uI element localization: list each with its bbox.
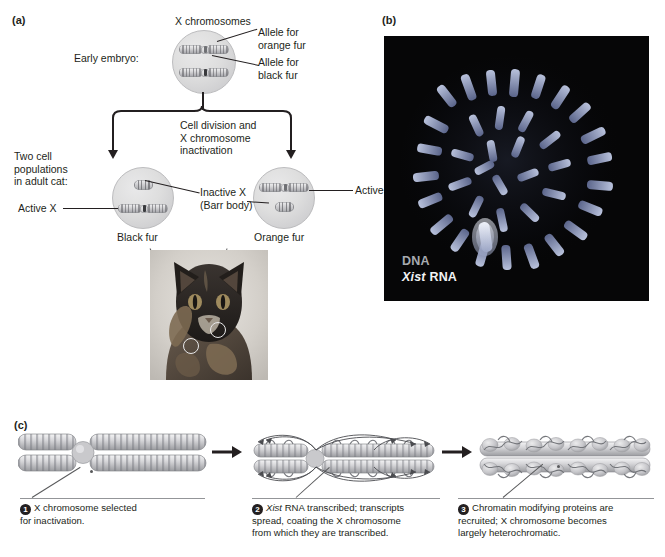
active-x-chromosome-left	[118, 204, 168, 213]
chromosome-stage-3	[474, 428, 656, 484]
photo-circle-orange-fur	[210, 322, 226, 338]
barr-body-chromosome-right	[275, 202, 294, 212]
two-cell-populations-label: Two cell populations in adult cat:	[14, 150, 68, 188]
leader-active-x-left	[63, 208, 118, 209]
early-embryo-label: Early embryo:	[74, 52, 139, 65]
active-x-chromosome-right	[259, 183, 309, 192]
step-1-line1: X chromosome selected	[34, 502, 137, 513]
step-2-line2: spread, coating the X chromosome	[252, 515, 440, 527]
step-1-line2: for inactivation.	[20, 515, 205, 527]
arrow-stage1-to-stage2	[212, 445, 242, 463]
black-fur-cell-label: Black fur	[117, 231, 158, 244]
panel-a-letter: (a)	[12, 14, 25, 26]
step-2-line3: from which they are transcribed.	[252, 527, 440, 539]
arrow-left-head	[108, 150, 118, 159]
step-2-line1: RNA transcribed; transcripts	[282, 502, 404, 513]
step-2-italic-lead: Xist	[266, 502, 282, 513]
leader-step-1-dot	[90, 470, 93, 473]
process-label: Cell division and X chromosome inactivat…	[180, 119, 256, 157]
arrow-right-shaft	[290, 124, 292, 152]
xist-rna-label: Xist RNA	[402, 270, 457, 284]
photo-circle-black-fur	[183, 338, 199, 354]
xist-italic: Xist	[402, 270, 426, 284]
step-3-number: 3	[458, 504, 469, 515]
dna-label: DNA	[402, 254, 430, 268]
active-x-left-label: Active X	[18, 202, 57, 215]
allele-black-label: Allele for black fur	[258, 56, 299, 81]
arrow-stage2-to-stage3	[442, 445, 472, 463]
chromosome-stage-2	[246, 424, 442, 486]
step-3-line2: recruited; X chromosome becomes	[458, 515, 654, 527]
step-3-caption: 3Chromatin modifying proteins are recrui…	[458, 502, 654, 539]
panel-b-letter: (b)	[382, 14, 396, 26]
x-chromosomes-label: X chromosomes	[175, 15, 251, 28]
arrow-left-shaft	[112, 124, 114, 152]
step-2-caption: 2Xist RNA transcribed; transcripts sprea…	[252, 502, 440, 539]
allele-orange-label: Allele for orange fur	[258, 26, 306, 51]
panel-c-letter: (c)	[14, 419, 27, 431]
adult-cell-orange-fur	[253, 167, 315, 229]
xist-rna-suffix: RNA	[426, 270, 457, 284]
arrow-right-head	[286, 150, 296, 159]
orange-fur-cell-label: Orange fur	[254, 231, 304, 244]
chromosome-orange-allele	[179, 45, 229, 54]
step-3-line3: largely heterochromatic.	[458, 527, 654, 539]
fluorescence-micrograph: DNA Xist RNA	[384, 36, 649, 301]
step-3-line1: Chromatin modifying proteins are	[472, 502, 613, 513]
early-embryo-cell	[172, 30, 236, 94]
adult-cell-black-fur	[112, 167, 174, 229]
step-1-number: 1	[20, 504, 31, 515]
chromosome-black-allele	[179, 68, 229, 77]
cat-photo	[150, 250, 268, 380]
inactive-x-label: Inactive X (Barr body)	[200, 186, 253, 211]
chromosome-stage-1	[18, 432, 208, 474]
step-2-number: 2	[252, 504, 263, 515]
step-1-caption: 1X chromosome selected for inactivation.	[20, 502, 205, 527]
leader-step-3-dot	[557, 465, 560, 468]
leader-active-x-right	[309, 190, 353, 191]
